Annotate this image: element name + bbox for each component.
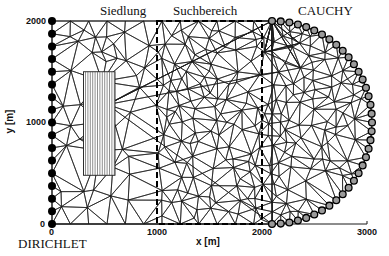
mesh-triangle (162, 21, 172, 44)
mesh-triangle (130, 105, 163, 134)
label-dirichlet: DIRICHLET (18, 236, 87, 252)
mesh-triangle (313, 76, 332, 87)
mesh-triangle (136, 68, 144, 87)
mesh-triangle (311, 109, 327, 125)
mesh-triangle (279, 167, 291, 190)
mesh-triangle (162, 177, 182, 190)
mesh-triangle (162, 58, 175, 80)
y-tick-2000: 2000 (26, 16, 46, 26)
mesh-triangle (325, 127, 336, 134)
mesh-triangle (209, 31, 219, 39)
mesh-triangle (293, 84, 304, 95)
mesh-triangle (126, 61, 144, 76)
cauchy-node (311, 211, 318, 218)
y-tick-1000: 1000 (26, 117, 46, 127)
dirichlet-node (48, 55, 56, 63)
mesh-triangle (162, 203, 180, 224)
mesh-triangle (257, 37, 265, 52)
mesh-triangle (312, 60, 325, 71)
cauchy-node (368, 128, 375, 135)
mesh-triangle (219, 122, 234, 135)
mesh-triangle (182, 193, 199, 201)
mesh-triangle (332, 76, 341, 87)
mesh-triangle (285, 120, 299, 129)
mesh-triangle (165, 36, 185, 44)
mesh-diagram: Siedlung Suchbereich CAUCHY DIRICHLET 20… (0, 0, 389, 256)
mesh-triangle (158, 147, 175, 162)
dirichlet-node (48, 30, 56, 38)
mesh-triangle (296, 138, 314, 159)
mesh-triangle (192, 62, 211, 72)
dirichlet-node (48, 80, 56, 88)
mesh-triangle (52, 37, 78, 47)
mesh-triangle (236, 72, 259, 82)
mesh-triangle (217, 147, 229, 160)
mesh-triangle (255, 199, 272, 209)
mesh-triangle (198, 131, 217, 149)
dirichlet-node (48, 169, 56, 177)
mesh-triangle (292, 143, 314, 159)
mesh-triangle (336, 109, 343, 127)
cauchy-node (319, 31, 326, 38)
mesh-triangle (188, 21, 209, 38)
mesh-triangle (279, 163, 291, 177)
mesh-triangle (164, 80, 171, 90)
mesh-triangle (270, 145, 279, 165)
mesh-triangle (336, 103, 351, 113)
mesh-triangle (322, 142, 330, 160)
cauchy-node (355, 68, 362, 75)
mesh-triangle (193, 141, 217, 156)
cauchy-node (294, 217, 301, 224)
mesh-triangle (300, 56, 311, 68)
mesh-triangle (236, 50, 251, 72)
mesh-triangle (210, 79, 217, 99)
cauchy-node (367, 101, 374, 108)
mesh-triangle (87, 190, 110, 208)
x-axis-title: x [m] (196, 236, 220, 247)
cauchy-node (277, 18, 284, 25)
mesh-triangle (242, 110, 255, 130)
label-cauchy: CAUCHY (298, 3, 353, 19)
mesh-triangle (226, 147, 233, 160)
mesh-triangle (188, 89, 205, 102)
mesh-triangle (325, 52, 338, 59)
cauchy-node (326, 36, 333, 43)
dirichlet-node (48, 157, 56, 165)
mesh-triangle (313, 70, 332, 80)
cauchy-node (368, 110, 375, 117)
mesh-triangle (211, 186, 236, 203)
mesh-triangle (327, 109, 336, 127)
mesh-triangle (272, 100, 281, 114)
cauchy-node (351, 177, 358, 184)
cauchy-node (367, 137, 374, 144)
mesh-triangle (199, 208, 217, 224)
mesh-triangle (193, 118, 217, 131)
mesh-triangle (330, 161, 347, 168)
mesh-triangle (185, 37, 195, 55)
mesh-triangle (286, 86, 293, 103)
mesh-triangle (188, 37, 205, 55)
cauchy-node (294, 21, 301, 28)
mesh-triangle (255, 184, 272, 202)
cauchy-node (363, 154, 370, 161)
mesh-triangle (304, 77, 313, 92)
mesh-triangle (111, 196, 128, 224)
mesh-triangle (172, 21, 182, 36)
mesh-triangle (125, 32, 150, 61)
mesh-triangle (92, 37, 102, 52)
mesh-triangle (70, 21, 88, 30)
mesh-triangle (71, 41, 92, 70)
dirichlet-node (48, 182, 56, 190)
dirichlet-node (48, 131, 56, 139)
mesh-triangle (279, 156, 292, 167)
mesh-triangle (280, 122, 285, 136)
mesh-triangle (130, 168, 163, 190)
cauchy-node (286, 19, 293, 26)
mesh-triangle (332, 83, 341, 102)
mesh-triangle (107, 196, 125, 224)
mesh-triangle (52, 71, 71, 107)
x-tick-0: 0 (49, 227, 54, 237)
mesh-triangle (178, 177, 188, 193)
mesh-triangle (291, 167, 311, 181)
mesh-triangle (276, 190, 287, 204)
